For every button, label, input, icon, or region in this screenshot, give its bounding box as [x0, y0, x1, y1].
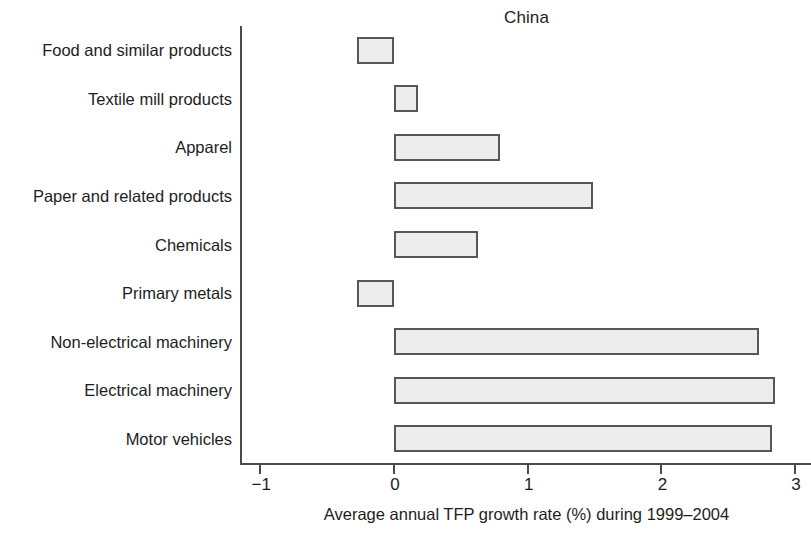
x-tick-label: 1 [509, 475, 549, 495]
category-label: Primary metals [122, 285, 232, 302]
x-tick-label: 3 [776, 475, 811, 495]
x-tick-mark [527, 465, 529, 474]
category-label: Non-electrical machinery [50, 334, 232, 351]
plot-area: Food and similar productsTextile mill pr… [0, 0, 811, 534]
category-label: Paper and related products [33, 188, 232, 205]
bar [394, 85, 418, 112]
x-tick-mark [393, 465, 395, 474]
x-tick-mark [259, 465, 261, 474]
category-label: Food and similar products [42, 42, 232, 59]
y-axis-line [240, 26, 242, 463]
x-tick-mark [660, 465, 662, 474]
bar [394, 377, 775, 404]
bar [394, 425, 772, 452]
category-label: Apparel [175, 139, 232, 156]
category-label: Textile mill products [88, 91, 232, 108]
chart-figure: China Food and similar productsTextile m… [0, 0, 811, 534]
x-axis-label-text: Average annual TFP growth rate (%) durin… [324, 505, 729, 523]
x-tick-label: 0 [375, 475, 415, 495]
x-tick-label: −1 [241, 475, 281, 495]
bar [357, 280, 394, 307]
x-axis-label: Average annual TFP growth rate (%) durin… [0, 505, 811, 524]
bar [394, 134, 500, 161]
x-axis-line [240, 463, 811, 465]
x-tick-mark [794, 465, 796, 474]
bar [394, 328, 759, 355]
bar [357, 37, 394, 64]
bar [394, 231, 478, 258]
category-label: Electrical machinery [84, 382, 232, 399]
category-label: Motor vehicles [126, 431, 232, 448]
x-tick-label: 2 [642, 475, 682, 495]
category-label: Chemicals [155, 237, 232, 254]
bar [394, 182, 593, 209]
